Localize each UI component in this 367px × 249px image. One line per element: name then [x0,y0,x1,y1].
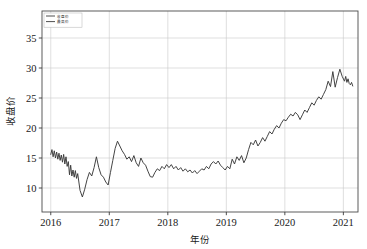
legend-label: 最高价 [57,19,69,24]
y-tick-label: 20 [26,123,37,134]
y-tick-label: 25 [26,93,37,104]
y-tick-label: 10 [26,183,37,194]
y-tick-label: 30 [26,63,37,74]
x-tick-label: 2019 [216,217,237,228]
x-tick-label: 2017 [99,217,120,228]
chart-figure: 101520253035 201620172018201920202021 收盘… [0,0,367,249]
x-tick-label: 2016 [40,217,61,228]
x-axis-title: 年份 [190,234,210,245]
y-tick-label: 15 [26,153,37,164]
x-tick-label: 2020 [274,217,295,228]
x-tick-label: 2021 [333,217,354,228]
legend-label: 收盘价 [57,14,69,19]
y-tick-label: 35 [26,33,37,44]
x-tick-label: 2018 [157,217,178,228]
y-axis-title: 收盘价 [5,96,16,126]
line-chart: 101520253035 201620172018201920202021 收盘… [0,0,367,249]
chart-legend[interactable]: 收盘价最高价 [44,13,82,27]
